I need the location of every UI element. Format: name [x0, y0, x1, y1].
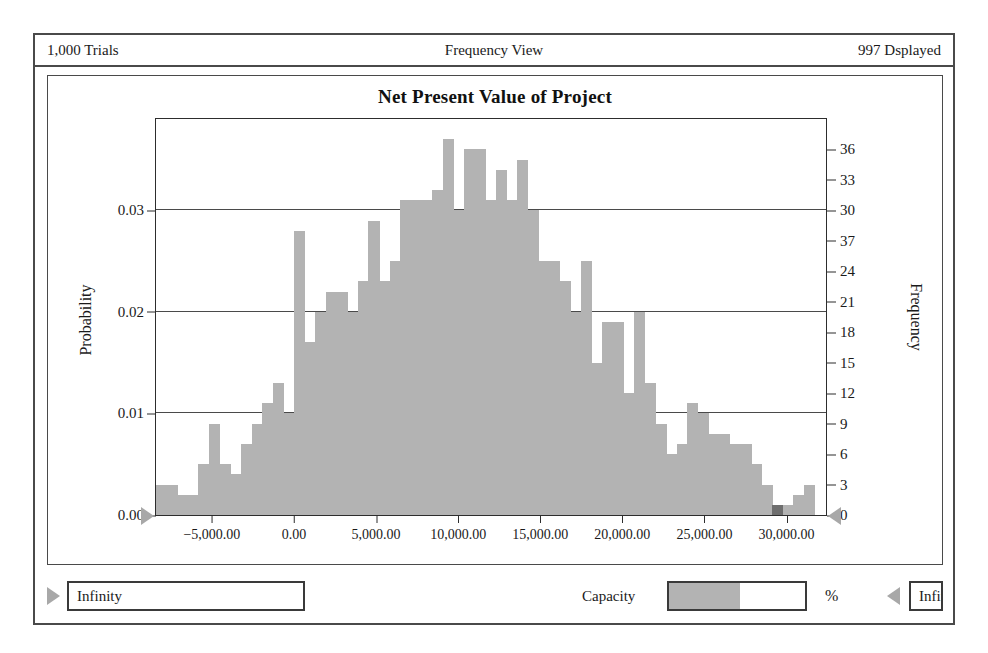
y-tick-right: 24 [826, 263, 855, 280]
histogram-bar [411, 200, 422, 515]
histogram-bar [634, 312, 645, 515]
histogram-bar [581, 261, 592, 515]
histogram-bar [337, 292, 348, 515]
histogram-bar [209, 424, 220, 515]
x-tick: 5,000.00 [352, 515, 401, 543]
histogram-bar [220, 464, 231, 515]
view-title-label: Frequency View [35, 41, 953, 59]
percent-label: % [825, 587, 838, 605]
y-tick-right: 21 [826, 293, 855, 310]
histogram-bar [443, 139, 454, 515]
histogram-bar [400, 200, 411, 515]
y-tick-right: 3 [826, 476, 848, 493]
x-tick: 10,000.00 [430, 515, 486, 543]
histogram-bar [262, 403, 273, 515]
upper-bound-grabber-icon[interactable] [828, 507, 841, 525]
histogram-bar [305, 342, 316, 515]
histogram-bar [379, 281, 390, 515]
y-tick-right: 9 [826, 415, 848, 432]
histogram-bar [422, 200, 433, 515]
forecast-window: 1,000 Trials Frequency View 997 Dsplayed… [33, 33, 955, 625]
histogram-bar [453, 210, 464, 515]
histogram-bar [740, 444, 751, 515]
histogram-bar [177, 495, 188, 515]
displayed-count-label: 997 Dsplayed [858, 41, 941, 59]
y-axis-label-left: Probability [77, 284, 95, 355]
histogram-bar [252, 424, 263, 515]
histogram-bar [485, 200, 496, 515]
upper-bound-input[interactable]: Infinity [909, 581, 943, 611]
histogram-bar [772, 505, 783, 515]
histogram-bar [294, 231, 305, 515]
histogram-bar [677, 444, 688, 515]
y-tick-right: 30 [826, 202, 855, 219]
histogram-bar [751, 464, 762, 515]
histogram-plot-area[interactable] [156, 119, 826, 515]
histogram-bar [390, 261, 401, 515]
histogram-bar [762, 485, 773, 515]
y-tick-left: 0.01 [118, 405, 156, 422]
y-tick-left: 0.02 [118, 303, 156, 320]
histogram-bar [507, 200, 518, 515]
lower-bound-triangle-icon[interactable] [47, 587, 60, 605]
histogram-bar [708, 434, 719, 515]
y-axis-label-right: Frequency [907, 283, 925, 351]
lower-bound-grabber-icon[interactable] [141, 507, 154, 525]
histogram-bar [188, 495, 199, 515]
histogram-bar [496, 170, 507, 515]
histogram-bar [464, 149, 475, 515]
histogram-bar [687, 403, 698, 515]
histogram-bar [698, 413, 709, 515]
chart-panel: Net Present Value of Project Probability… [47, 75, 943, 565]
histogram-bar [167, 485, 178, 515]
histogram-bar [560, 281, 571, 515]
upper-bound-triangle-icon[interactable] [887, 587, 900, 605]
histogram-bar [666, 454, 677, 515]
histogram-bar [528, 210, 539, 515]
x-tick: −5,000.00 [183, 515, 240, 543]
histogram-bar [592, 363, 603, 515]
histogram-bar [538, 261, 549, 515]
histogram-bar [358, 281, 369, 515]
control-bar: Infinity Capacity % Infinity [47, 578, 943, 614]
histogram-bar [241, 444, 252, 515]
histogram-bar [315, 312, 326, 515]
chart-title: Net Present Value of Project [48, 86, 942, 108]
histogram-bar [549, 261, 560, 515]
x-tick: 15,000.00 [512, 515, 568, 543]
header-bar: 1,000 Trials Frequency View 997 Dsplayed [35, 35, 953, 67]
histogram-bar [230, 474, 241, 515]
histogram-bar [645, 383, 656, 515]
x-tick: 0.00 [282, 515, 307, 543]
histogram-bar [283, 413, 294, 515]
y-tick-right: 37 [826, 232, 855, 249]
y-tick-right: 12 [826, 385, 855, 402]
histogram-bar [719, 434, 730, 515]
y-tick-right: 33 [826, 171, 855, 188]
x-tick: 30,000.00 [759, 515, 815, 543]
histogram-bar [783, 505, 794, 515]
histogram-bar [347, 312, 358, 515]
histogram-bar [517, 160, 528, 515]
y-tick-left: 0.03 [118, 202, 156, 219]
histogram-bar [613, 322, 624, 515]
y-tick-right: 18 [826, 324, 855, 341]
histogram-bar [432, 190, 443, 515]
capacity-label: Capacity [582, 588, 635, 605]
histogram-bar [730, 444, 741, 515]
histogram-bar [198, 464, 209, 515]
capacity-input[interactable] [667, 581, 807, 611]
y-tick-right: 6 [826, 446, 848, 463]
lower-bound-input[interactable]: Infinity [67, 581, 305, 611]
x-tick: 20,000.00 [594, 515, 650, 543]
histogram-bar [156, 485, 167, 515]
y-tick-right: 36 [826, 141, 855, 158]
histogram-bar [368, 221, 379, 515]
histogram-bar [475, 149, 486, 515]
histogram-bar [602, 322, 613, 515]
histogram-bar [273, 383, 284, 515]
histogram-bar [326, 292, 337, 515]
histogram-bar [570, 312, 581, 515]
y-tick-right: 15 [826, 354, 855, 371]
histogram-bar [804, 485, 815, 515]
